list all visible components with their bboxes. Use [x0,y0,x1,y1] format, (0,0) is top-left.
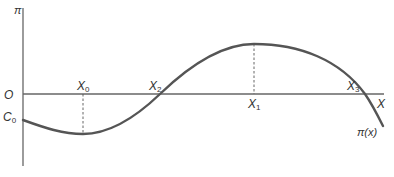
origin-label: O [4,88,13,102]
x1-label: X1 [247,97,261,112]
x3-label: X3 [346,79,360,94]
y-axis-label: π [14,4,22,16]
x-axis-label: X [376,97,386,111]
curve-label: π(x) [357,126,378,138]
profit-function-diagram: π O X C0 X0 X2 X1 X3 π(x) [0,0,394,177]
x2-label: X2 [148,79,162,94]
c0-label: C0 [3,110,17,125]
x0-label: X0 [76,79,90,94]
